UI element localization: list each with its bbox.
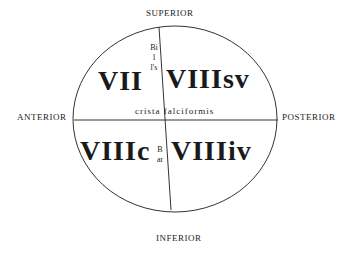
quadrant-vii: VII xyxy=(98,67,143,95)
quadrant-viiiiv: VIIIiv xyxy=(171,137,252,165)
crista-falciformis-label: crista falciformis xyxy=(135,106,214,116)
label-posterior: POSTERIOR xyxy=(282,112,336,122)
bar-label: Bar xyxy=(156,145,164,165)
bills-bar-label: Bill's xyxy=(150,43,158,73)
label-inferior: INFERIOR xyxy=(156,233,202,243)
label-anterior: ANTERIOR xyxy=(17,112,67,122)
diagram-shapes xyxy=(0,0,349,254)
nerve-circle xyxy=(73,26,277,212)
quadrant-viiic: VIIIc xyxy=(80,137,150,165)
label-superior: SUPERIOR xyxy=(146,8,194,18)
quadrant-viiisv: VIIIsv xyxy=(166,65,250,93)
vertical-divider xyxy=(159,27,171,210)
